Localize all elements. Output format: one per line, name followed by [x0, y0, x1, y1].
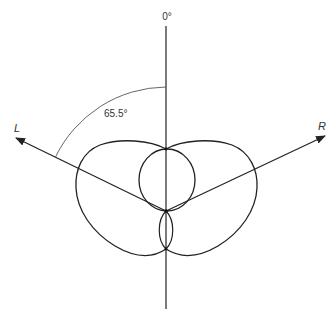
top-junction-dot [165, 148, 168, 151]
left-lobe [76, 141, 166, 256]
polar-diagram: 0° 65.5° L R [0, 0, 335, 320]
right-lobe [166, 141, 257, 256]
right-axis-arrow [166, 136, 325, 211]
left-axis-arrow [16, 138, 166, 211]
origin-dot [164, 209, 168, 213]
right-axis-label: R [318, 120, 326, 132]
angle-arc [55, 87, 166, 158]
bottom-junction-dot [165, 248, 168, 251]
angle-label: 65.5° [104, 108, 127, 119]
zero-degree-label: 0° [162, 11, 172, 22]
left-axis-label: L [14, 122, 20, 134]
front-circle [139, 149, 195, 211]
